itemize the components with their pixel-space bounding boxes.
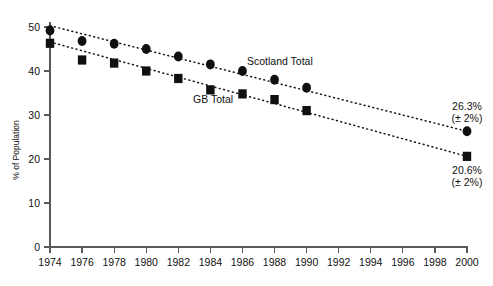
data-point-square <box>302 106 310 115</box>
y-axis-title: % of Population <box>11 120 21 180</box>
data-point-square <box>142 66 150 75</box>
data-point-circle <box>46 26 55 36</box>
y-tick-label: 30 <box>28 109 40 121</box>
x-tick-label: 1978 <box>102 256 126 268</box>
data-point-circle <box>142 44 151 54</box>
y-tick-label: 50 <box>28 21 40 33</box>
chart-container: 01020304050 1974197619781980198219841986… <box>0 0 493 286</box>
gb-total-label: GB Total <box>193 93 233 105</box>
endpoint-annotations-group: 26.3%(± 2%)20.6%(± 2%) <box>452 100 483 188</box>
x-tick-label: 1986 <box>231 256 255 268</box>
data-points-group <box>46 26 472 161</box>
data-point-circle <box>78 36 87 46</box>
x-tick-label: 2000 <box>455 256 479 268</box>
y-tick-label: 40 <box>28 65 40 77</box>
annotation-error: (± 2%) <box>452 176 483 188</box>
data-point-circle <box>238 66 247 76</box>
y-tick-label: 10 <box>28 197 40 209</box>
x-tick-label: 1990 <box>295 256 319 268</box>
x-tick-label: 1996 <box>391 256 415 268</box>
annotation-gb-endpoint: 20.6%(± 2%) <box>452 164 483 188</box>
data-point-square <box>238 89 246 98</box>
data-point-square <box>463 152 471 161</box>
x-tick-label: 1984 <box>199 256 223 268</box>
x-axis-tick-labels: 1974197619781980198219841986198819901992… <box>38 256 479 268</box>
y-tick-label: 20 <box>28 153 40 165</box>
annotation-scotland-endpoint: 26.3%(± 2%) <box>452 100 483 124</box>
data-point-circle <box>463 126 472 136</box>
annotation-error: (± 2%) <box>452 112 483 124</box>
x-tick-label: 1980 <box>135 256 159 268</box>
scatter-plot: 01020304050 1974197619781980198219841986… <box>0 0 493 286</box>
data-point-circle <box>302 83 311 93</box>
annotation-value: 20.6% <box>452 164 482 176</box>
data-point-circle <box>206 59 215 69</box>
x-tick-label: 1976 <box>70 256 94 268</box>
x-tick-label: 1998 <box>423 256 447 268</box>
data-point-square <box>46 39 54 48</box>
series-scotland-total <box>46 26 472 137</box>
annotation-value: 26.3% <box>452 100 482 112</box>
scotland-total-label: Scotland Total <box>247 55 313 67</box>
x-tick-label: 1994 <box>359 256 383 268</box>
x-tick-label: 1982 <box>167 256 191 268</box>
data-point-circle <box>110 39 119 49</box>
y-tick-label: 0 <box>34 241 40 253</box>
data-point-square <box>174 74 182 83</box>
data-point-circle <box>270 75 279 85</box>
y-axis-tick-labels: 01020304050 <box>28 21 40 253</box>
y-axis-ticks <box>44 27 50 247</box>
x-axis-ticks <box>50 247 467 253</box>
x-tick-label: 1988 <box>263 256 287 268</box>
data-point-circle <box>174 51 183 61</box>
x-tick-label: 1974 <box>38 256 62 268</box>
x-tick-label: 1992 <box>327 256 351 268</box>
data-point-square <box>270 95 278 104</box>
data-point-square <box>78 55 86 64</box>
data-point-square <box>110 58 118 67</box>
